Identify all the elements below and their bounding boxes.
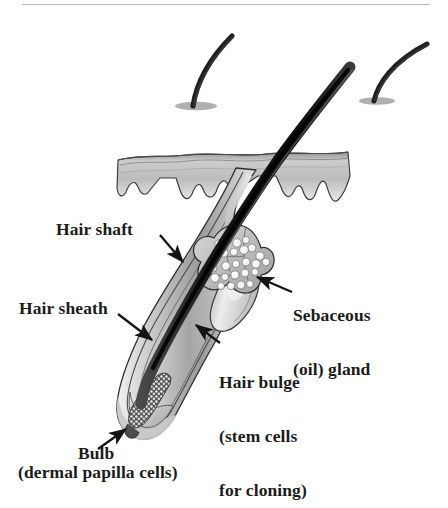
background-hair-left [175, 36, 233, 110]
arrow-hair-shaft [160, 235, 183, 262]
label-hair-bulge-line3: for cloning) [219, 481, 307, 499]
label-sebaceous-line1: Sebaceous [293, 306, 371, 324]
label-hair-bulge-line2: (stem cells [219, 427, 307, 445]
label-hair-bulge: Hair bulge (stem cells for cloning) [219, 337, 307, 508]
background-hair-right [359, 44, 428, 105]
label-bulb: Bulb [78, 444, 114, 462]
arrow-sebaceous-gland [257, 277, 292, 292]
label-bulb-sub: (dermal papilla cells) [18, 463, 178, 481]
label-hair-shaft: Hair shaft [56, 220, 133, 238]
hair-follicle-diagram: Hair shaft Hair sheath Sebaceous (oil) g… [0, 0, 448, 508]
label-hair-sheath: Hair sheath [19, 299, 108, 317]
label-hair-bulge-line1: Hair bulge [219, 373, 307, 391]
